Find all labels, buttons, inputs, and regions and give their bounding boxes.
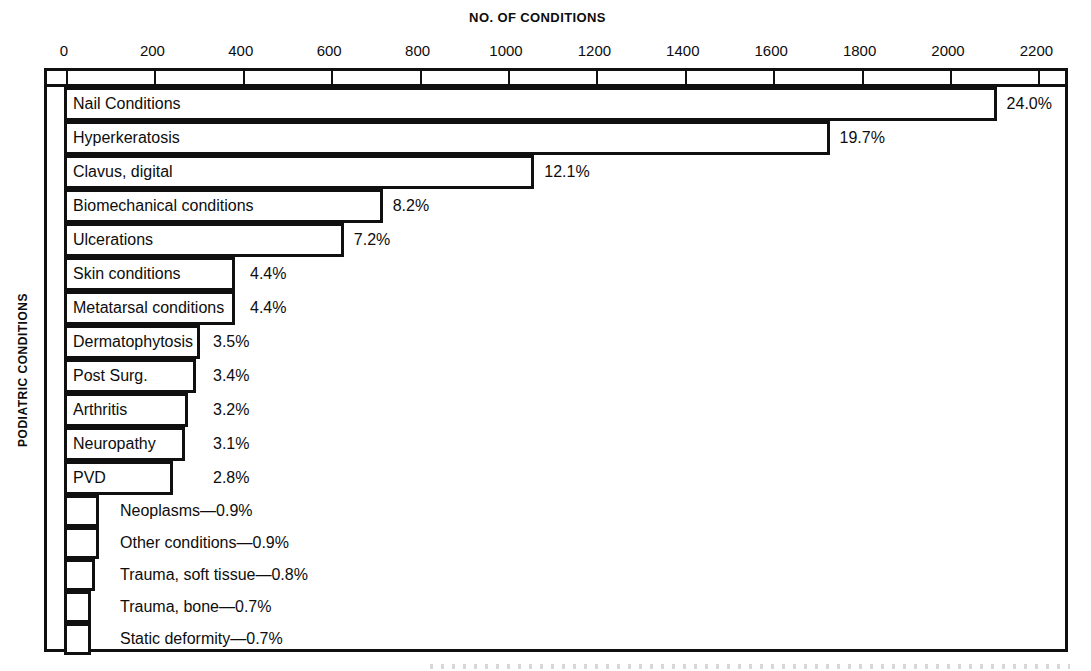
bar-label: Post Surg. <box>67 368 148 384</box>
bar[interactable] <box>64 495 99 527</box>
x-tick-mark <box>596 71 598 84</box>
x-tick-label: 1400 <box>666 42 699 59</box>
x-tick-label: 800 <box>405 42 430 59</box>
scan-artifact <box>430 664 1070 669</box>
bar-value-label: 4.4% <box>250 266 286 282</box>
bar[interactable]: Nail Conditions <box>64 87 997 121</box>
bar-row[interactable]: Hyperkeratosis19.7% <box>47 121 1065 155</box>
bar[interactable] <box>64 527 99 559</box>
bar-value-label: 19.7% <box>840 130 885 146</box>
x-tick-mark <box>950 71 952 84</box>
bar-value-label: 24.0% <box>1007 96 1052 112</box>
bar-value-label: 12.1% <box>544 164 589 180</box>
chart-root: NO. OF CONDITIONS PODIATRIC CONDITIONS 0… <box>0 0 1091 671</box>
x-axis-tick-labels: 0200400600800100012001400160018002000220… <box>0 42 1091 62</box>
bar-outside-label: Other conditions—0.9% <box>120 535 289 551</box>
x-tick-mark <box>243 71 245 84</box>
bar-label: Biomechanical conditions <box>67 198 254 214</box>
x-tick-mark <box>1038 71 1040 84</box>
plot-area: Nail Conditions24.0%Hyperkeratosis19.7%C… <box>47 87 1065 649</box>
bar-outside-label: Trauma, bone—0.7% <box>120 599 271 615</box>
bar-label: Ulcerations <box>67 232 153 248</box>
x-tick-mark <box>154 71 156 84</box>
bar-label: Neuropathy <box>67 436 156 452</box>
bar[interactable]: Clavus, digital <box>64 155 534 189</box>
bar-row[interactable]: Post Surg.3.4% <box>47 359 1065 393</box>
x-tick-label: 400 <box>228 42 253 59</box>
bar-label: Nail Conditions <box>67 96 181 112</box>
bar[interactable]: Metatarsal conditions <box>64 291 235 325</box>
bar[interactable] <box>64 591 91 623</box>
bar-label: Dermatophytosis <box>67 334 193 350</box>
bar-row[interactable]: Other conditions—0.9% <box>47 527 1065 559</box>
bar-outside-label: Neoplasms—0.9% <box>120 503 253 519</box>
bar-row[interactable]: Neoplasms—0.9% <box>47 495 1065 527</box>
bar[interactable]: Biomechanical conditions <box>64 189 383 223</box>
bar-label: Hyperkeratosis <box>67 130 180 146</box>
x-tick-mark <box>66 71 68 84</box>
x-tick-label: 0 <box>60 42 68 59</box>
bar-value-label: 4.4% <box>250 300 286 316</box>
bar[interactable]: Hyperkeratosis <box>64 121 830 155</box>
x-tick-label: 1600 <box>755 42 788 59</box>
chart-title: NO. OF CONDITIONS <box>0 10 1091 25</box>
y-axis-caption: PODIATRIC CONDITIONS <box>16 270 38 470</box>
bar-value-label: 3.1% <box>213 436 249 452</box>
x-tick-mark <box>420 71 422 84</box>
x-tick-label: 2000 <box>931 42 964 59</box>
bar-row[interactable]: Clavus, digital12.1% <box>47 155 1065 189</box>
x-tick-mark <box>773 71 775 84</box>
bar[interactable]: PVD <box>64 461 173 495</box>
x-tick-label: 2200 <box>1020 42 1053 59</box>
bar-row[interactable]: Arthritis3.2% <box>47 393 1065 427</box>
bar-row[interactable]: PVD2.8% <box>47 461 1065 495</box>
bar[interactable]: Post Surg. <box>64 359 196 393</box>
x-tick-mark <box>331 71 333 84</box>
bar-row[interactable]: Neuropathy3.1% <box>47 427 1065 461</box>
bar-row[interactable]: Biomechanical conditions8.2% <box>47 189 1065 223</box>
bar[interactable] <box>64 559 95 591</box>
x-tick-mark <box>685 71 687 84</box>
bar-value-label: 3.5% <box>213 334 249 350</box>
bar-outside-label: Trauma, soft tissue—0.8% <box>120 567 308 583</box>
chart-title-text: NO. OF CONDITIONS <box>469 10 606 25</box>
bar-row[interactable]: Nail Conditions24.0% <box>47 87 1065 121</box>
bar-row[interactable]: Metatarsal conditions4.4% <box>47 291 1065 325</box>
bar[interactable]: Arthritis <box>64 393 188 427</box>
x-tick-mark <box>508 71 510 84</box>
bar[interactable]: Dermatophytosis <box>64 325 200 359</box>
bar-outside-label: Static deformity—0.7% <box>120 631 283 647</box>
bar-value-label: 3.4% <box>213 368 249 384</box>
bar-value-label: 3.2% <box>213 402 249 418</box>
x-axis-tick-band <box>47 71 1065 87</box>
bar-row[interactable]: Dermatophytosis3.5% <box>47 325 1065 359</box>
bar-row[interactable]: Trauma, soft tissue—0.8% <box>47 559 1065 591</box>
x-tick-label: 200 <box>140 42 165 59</box>
bar-value-label: 2.8% <box>213 470 249 486</box>
x-tick-label: 1800 <box>843 42 876 59</box>
x-tick-label: 600 <box>317 42 342 59</box>
x-tick-mark <box>862 71 864 84</box>
bar[interactable]: Skin conditions <box>64 257 235 291</box>
bar[interactable]: Neuropathy <box>64 427 185 461</box>
bar[interactable]: Ulcerations <box>64 223 344 257</box>
bar-row[interactable]: Skin conditions4.4% <box>47 257 1065 291</box>
bar-value-label: 8.2% <box>393 198 429 214</box>
bar[interactable] <box>64 623 91 655</box>
bar-row[interactable]: Trauma, bone—0.7% <box>47 591 1065 623</box>
bar-row[interactable]: Ulcerations7.2% <box>47 223 1065 257</box>
bar-label: Metatarsal conditions <box>67 300 224 316</box>
bar-value-label: 7.2% <box>354 232 390 248</box>
x-tick-label: 1200 <box>578 42 611 59</box>
bar-label: Arthritis <box>67 402 127 418</box>
x-tick-label: 1000 <box>489 42 522 59</box>
bar-label: Clavus, digital <box>67 164 173 180</box>
bar-label: PVD <box>67 470 106 486</box>
plot-frame: Nail Conditions24.0%Hyperkeratosis19.7%C… <box>44 68 1068 652</box>
bar-row[interactable]: Static deformity—0.7% <box>47 623 1065 655</box>
bar-label: Skin conditions <box>67 266 181 282</box>
